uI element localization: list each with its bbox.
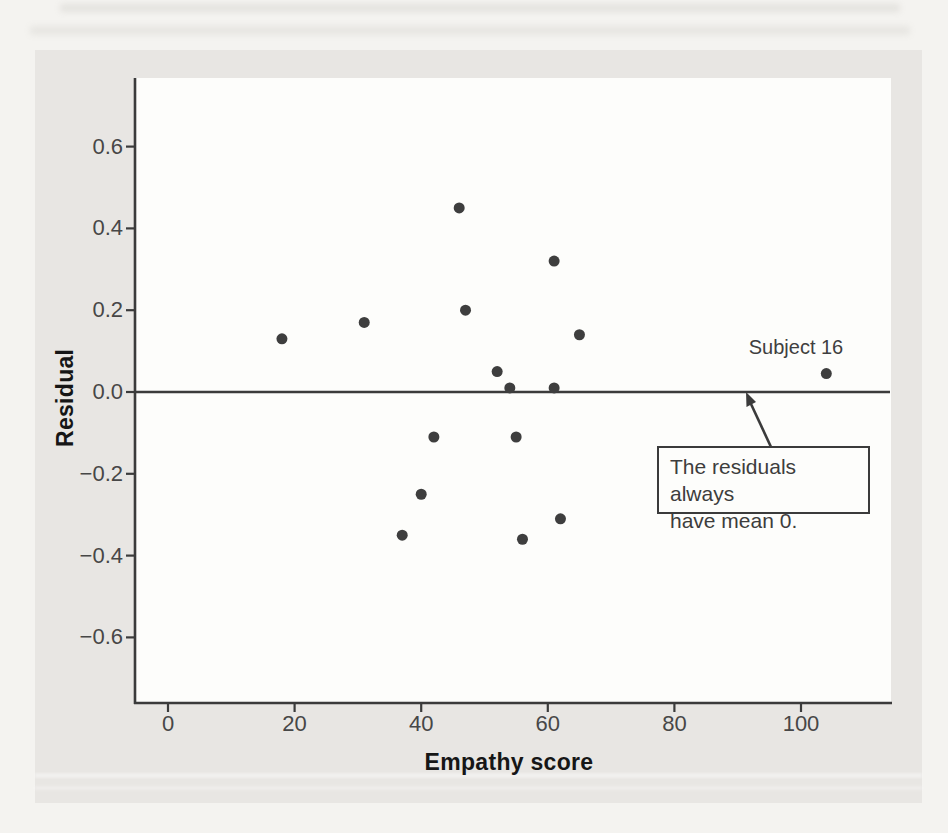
annotation-box: The residuals always have mean 0. <box>657 446 870 514</box>
x-tick-label: 40 <box>389 712 453 736</box>
scan-artifact <box>30 26 910 35</box>
y-axis-label: Residual <box>50 359 80 447</box>
scan-artifact <box>35 786 922 790</box>
scan-artifact <box>60 4 900 12</box>
book-page: 0.60.40.20.0−0.2−0.4−0.6 020406080100 Re… <box>0 0 948 833</box>
annotation-line-1: The residuals always <box>670 453 857 507</box>
outlier-point-label: Subject 16 <box>744 336 848 359</box>
x-tick-label: 80 <box>642 712 706 736</box>
x-tick-label: 100 <box>769 712 833 736</box>
x-tick-label: 20 <box>263 712 327 736</box>
y-tick-label: −0.2 <box>59 462 123 486</box>
x-tick-label: 0 <box>136 712 200 736</box>
x-tick-label: 60 <box>516 712 580 736</box>
annotation-line-2: have mean 0. <box>670 507 857 534</box>
y-tick-label: −0.6 <box>59 625 123 649</box>
x-axis-label: Empathy score <box>409 749 609 776</box>
y-tick-label: 0.2 <box>59 298 123 322</box>
plot-area <box>134 78 891 704</box>
y-tick-label: 0.4 <box>59 216 123 240</box>
y-tick-label: −0.4 <box>59 544 123 568</box>
y-tick-label: 0.6 <box>59 135 123 159</box>
